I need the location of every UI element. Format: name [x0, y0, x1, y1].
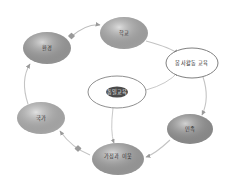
- edge-nation-environment: [24, 64, 30, 104]
- node-family-neighbor-shading: [92, 143, 144, 175]
- edge-environment-school: [72, 25, 100, 36]
- edge-family-nation: [60, 131, 90, 155]
- node-nation-shading: [17, 102, 65, 134]
- edge-service-ethnicity: [202, 77, 206, 115]
- node-environment[interactable]: 환경: [23, 32, 71, 64]
- node-family-neighbor[interactable]: 가정과 이웃: [92, 143, 144, 175]
- edge-center-family: [112, 108, 114, 143]
- node-school-shading: [100, 17, 148, 49]
- node-environment-shading: [23, 32, 71, 64]
- node-school[interactable]: 학교: [100, 17, 148, 49]
- node-service-education-shape[interactable]: [166, 48, 218, 78]
- node-service-education[interactable]: 봉사활동 교육: [166, 48, 218, 78]
- node-center[interactable]: 통일교육: [88, 76, 146, 108]
- node-nation[interactable]: 국가: [17, 102, 65, 134]
- node-ethnicity-shading: [167, 114, 213, 144]
- edge-school-service: [146, 41, 178, 54]
- node-ethnicity[interactable]: 민족: [167, 114, 213, 144]
- edge-marker-environment-school: [68, 32, 75, 39]
- edge-center-service: [146, 72, 178, 90]
- edge-ethnicity-family: [146, 140, 170, 157]
- node-center-highlight: [106, 87, 128, 98]
- cycle-diagram: 환경 학교 봉사활동 교육 민족 가정과 이웃 국가 통일교육: [0, 0, 231, 192]
